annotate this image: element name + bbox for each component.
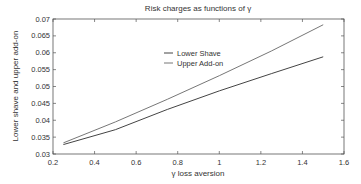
y-tick-label: 0.065 — [31, 31, 50, 40]
x-tick-label: 0.4 — [89, 158, 99, 167]
plot-frame — [53, 19, 344, 154]
legend: Lower ShaveUpper Add-on — [164, 49, 223, 68]
y-tick-label: 0.04 — [35, 116, 50, 125]
line-chart: Risk charges as functions of γ 0.20.40.6… — [0, 0, 361, 184]
y-tick-label: 0.035 — [31, 133, 50, 142]
y-tick-label: 0.05 — [35, 82, 50, 91]
x-tick-label: 1.6 — [339, 158, 349, 167]
x-axis-label: γ loss aversion — [172, 169, 225, 178]
legend-label: Upper Add-on — [177, 59, 223, 68]
x-tick-label: 1 — [217, 158, 221, 167]
x-axis: 0.20.40.60.811.21.41.6 — [48, 19, 349, 167]
series-line-upper-add-on — [63, 25, 323, 143]
x-tick-label: 0.8 — [172, 158, 182, 167]
x-tick-label: 1.2 — [256, 158, 266, 167]
series-line-lower-shave — [63, 57, 323, 145]
y-tick-label: 0.06 — [35, 48, 50, 57]
chart-title: Risk charges as functions of γ — [145, 4, 251, 13]
x-tick-label: 0.2 — [48, 158, 58, 167]
series-lines — [63, 25, 323, 145]
y-axis-label: Lower shave and upper add-on — [11, 31, 20, 142]
x-tick-label: 0.6 — [131, 158, 141, 167]
x-tick-label: 1.4 — [297, 158, 307, 167]
y-tick-label: 0.03 — [35, 150, 50, 159]
y-tick-label: 0.055 — [31, 65, 50, 74]
legend-label: Lower Shave — [177, 49, 221, 58]
y-tick-label: 0.07 — [35, 15, 50, 24]
plot-border — [53, 19, 344, 154]
y-tick-label: 0.045 — [31, 99, 50, 108]
